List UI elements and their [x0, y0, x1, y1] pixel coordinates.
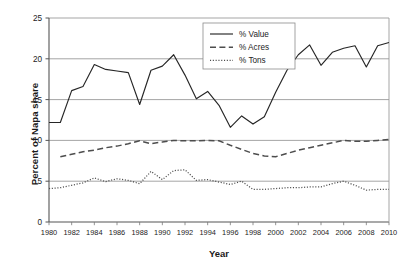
x-tick-labels-group: 1980198219841986198819901992199419961998…: [41, 228, 397, 237]
x-tick-label-2002: 2002: [290, 228, 306, 237]
y-tick-label-20: 20: [33, 55, 43, 64]
y-tick-labels-group: 0510152025: [33, 14, 43, 227]
legend-label-0: % Value: [239, 30, 269, 39]
chart-figure: Percent of Napa share 0510152025 1980198…: [0, 0, 412, 268]
legend-label-2: % Tons: [239, 56, 266, 65]
x-tick-label-1990: 1990: [154, 228, 170, 237]
x-tick-label-1982: 1982: [63, 228, 79, 237]
x-tick-label-1986: 1986: [109, 228, 125, 237]
y-tick-label-5: 5: [37, 177, 42, 186]
y-tick-label-0: 0: [37, 218, 42, 227]
x-axis-title: Year: [49, 248, 389, 259]
y-tick-label-25: 25: [33, 14, 43, 23]
x-tick-label-2010: 2010: [381, 228, 397, 237]
chart-plot-area: 0510152025 19801982198419861988199019921…: [0, 0, 412, 268]
x-tick-label-2004: 2004: [313, 228, 329, 237]
y-tick-label-10: 10: [33, 136, 43, 145]
x-tick-label-1988: 1988: [131, 228, 147, 237]
x-tick-label-1980: 1980: [41, 228, 57, 237]
x-tick-label-1984: 1984: [86, 228, 102, 237]
x-tick-label-2000: 2000: [267, 228, 283, 237]
x-tick-label-2008: 2008: [358, 228, 374, 237]
chart-legend: % Value% Acres% Tons: [203, 23, 295, 69]
x-tick-label-2006: 2006: [335, 228, 351, 237]
x-tick-label-1994: 1994: [199, 228, 215, 237]
legend-label-1: % Acres: [239, 43, 269, 52]
x-tick-label-1992: 1992: [177, 228, 193, 237]
x-tick-label-1998: 1998: [245, 228, 261, 237]
y-tick-label-15: 15: [33, 96, 43, 105]
x-tick-label-1996: 1996: [222, 228, 238, 237]
series-line-tons: [49, 170, 389, 190]
series-line-acres: [60, 140, 389, 157]
